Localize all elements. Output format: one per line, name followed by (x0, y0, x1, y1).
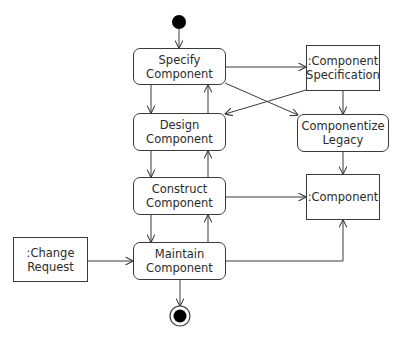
edge-maintain-to-component (226, 220, 343, 261)
activity-specify-component[interactable]: SpecifyComponent (133, 48, 226, 85)
object-label-line2: Specification (306, 68, 380, 82)
activity-label-line2: Component (146, 261, 213, 275)
start-node (172, 15, 186, 29)
object-component-specification[interactable]: :ComponentSpecification (306, 45, 380, 91)
object-label-line2: Request (27, 260, 75, 274)
activity-label-line1: Maintain (146, 247, 213, 261)
activity-label-line1: Specify (146, 53, 213, 67)
object-change-request[interactable]: :ChangeRequest (13, 237, 88, 282)
activity-componentize-legacy[interactable]: ComponentizeLegacy (297, 114, 389, 152)
object-label-line1: :Component (308, 190, 379, 204)
activity-maintain-component[interactable]: MaintainComponent (133, 242, 226, 280)
object-component[interactable]: :Component (306, 174, 380, 220)
activity-diagram: SpecifyComponent DesignComponent Constru… (0, 0, 399, 337)
activity-construct-component[interactable]: ConstructComponent (133, 177, 226, 215)
object-label-line1: :Change (27, 246, 75, 260)
end-node (170, 306, 190, 326)
activity-label-line2: Component (146, 132, 213, 146)
activity-design-component[interactable]: DesignComponent (133, 113, 226, 151)
edge-specify-to-componentize (225, 83, 298, 115)
object-label-line1: :Component (306, 54, 380, 68)
activity-label-line1: Componentize (301, 119, 384, 133)
activity-label-line2: Legacy (301, 133, 384, 147)
activity-label-line1: Construct (146, 182, 213, 196)
activity-label-line2: Component (146, 67, 213, 81)
edge-spec-to-design (225, 90, 306, 114)
activity-label-line1: Design (146, 118, 213, 132)
activity-label-line2: Component (146, 196, 213, 210)
